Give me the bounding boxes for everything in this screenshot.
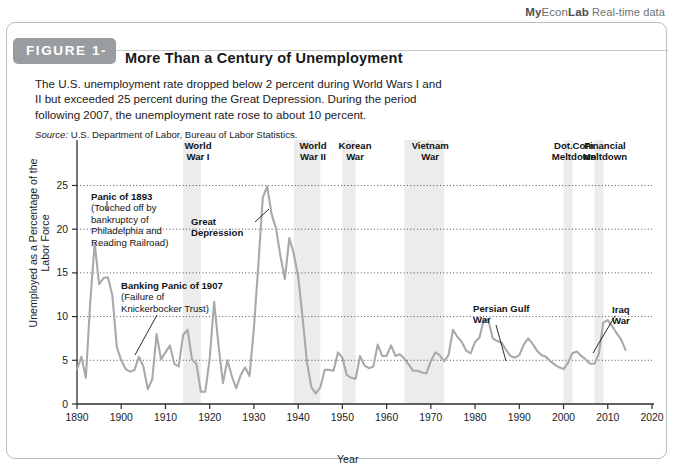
- war-label-financial: FinancialMeltdown: [560, 140, 650, 163]
- x-tick-label-1920: 1920: [198, 412, 221, 423]
- annotation-title: Banking Panic of 1907: [121, 280, 223, 291]
- x-tick-label-2000: 2000: [552, 412, 575, 423]
- annotation-great-depression: GreatDepression: [191, 216, 243, 239]
- annotation-body-line: Philadelphia and: [91, 225, 168, 236]
- y-tick-label-20: 20: [56, 224, 68, 235]
- y-tick-label-25: 25: [56, 180, 68, 191]
- annotation-body-line: bankruptcy of: [91, 214, 168, 225]
- annotation-banking-panic-of-1907: Banking Panic of 1907(Failure ofKnickerb…: [121, 280, 223, 314]
- x-tick-label-2020: 2020: [640, 412, 663, 423]
- brand-econ: Econ: [541, 6, 568, 18]
- y-tick-label-5: 5: [62, 355, 68, 366]
- war-label-line2: War: [385, 151, 475, 162]
- annotation-body-line: (Failure of: [121, 291, 223, 302]
- y-tick-label-10: 10: [56, 311, 68, 322]
- shaded-band-financial-meltdown: [595, 140, 604, 404]
- x-tick-label-1910: 1910: [154, 412, 177, 423]
- brand-realtime-data: Real-time data: [592, 6, 665, 18]
- x-tick-label-1930: 1930: [242, 412, 265, 423]
- x-tick-label-1960: 1960: [375, 412, 398, 423]
- annotation-iraq-war: IraqWar: [612, 304, 630, 327]
- x-tick-label-1900: 1900: [110, 412, 133, 423]
- figure-page: MyEconLab Real-time data FIGURE 1-1 More…: [0, 0, 673, 465]
- x-tick-label-2010: 2010: [596, 412, 619, 423]
- war-label-line2: Meltdown: [560, 151, 650, 162]
- war-label-line2: War I: [153, 151, 243, 162]
- x-tick-label-1970: 1970: [419, 412, 442, 423]
- war-label-line1: World: [153, 140, 243, 151]
- x-tick-label-1980: 1980: [464, 412, 487, 423]
- brand-my: My: [525, 6, 541, 18]
- myeconlab-brand: MyEconLab Real-time data: [525, 6, 665, 18]
- shaded-band-world-war-i: [183, 140, 201, 404]
- brand-lab: Lab: [568, 6, 589, 18]
- annotation-title: Persian GulfWar: [473, 303, 530, 326]
- war-label-line1: Financial: [560, 140, 650, 151]
- annotation-body-line: (Touched off by: [91, 202, 168, 213]
- figure-frame: FIGURE 1-1 More Than a Century of Unempl…: [6, 22, 667, 459]
- war-label-vietnam: VietnamWar: [385, 140, 475, 163]
- x-tick-label-1940: 1940: [287, 412, 310, 423]
- annotation-body-line: Reading Railroad): [91, 237, 168, 248]
- annotation-body-line: Knickerbocker Trust): [121, 303, 223, 314]
- x-tick-label-1990: 1990: [508, 412, 531, 423]
- y-tick-label-0: 0: [62, 399, 68, 410]
- shaded-band-vietnam-war: [404, 140, 444, 404]
- war-label-world: WorldWar I: [153, 140, 243, 163]
- annotation-panic-of-1893: Panic of 1893(Touched off bybankruptcy o…: [91, 191, 168, 248]
- annotation-title: IraqWar: [612, 304, 630, 327]
- war-label-line1: Vietnam: [385, 140, 475, 151]
- annotation-title: Panic of 1893: [91, 191, 168, 202]
- y-tick-label-15: 15: [56, 267, 68, 278]
- annotation-title: GreatDepression: [191, 216, 243, 239]
- x-tick-label-1890: 1890: [65, 412, 88, 423]
- x-tick-label-1950: 1950: [331, 412, 354, 423]
- annotation-persian-gulf-war: Persian GulfWar: [473, 303, 530, 326]
- annotation-leader-line: [496, 325, 506, 361]
- annotation-leader-line: [135, 315, 157, 355]
